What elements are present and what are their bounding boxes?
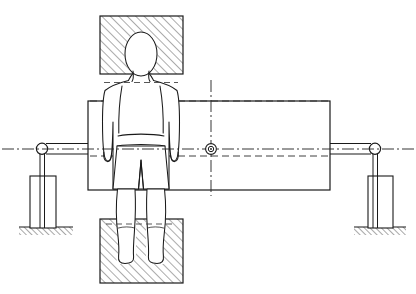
center-mark-dot xyxy=(210,148,212,150)
center-pivot-mark xyxy=(206,144,217,155)
diagram-svg xyxy=(0,0,416,294)
lower-fixture-block xyxy=(100,219,183,283)
figure-torso-and-arms xyxy=(103,71,180,189)
figure-left-leg xyxy=(116,189,135,264)
right-pedestal xyxy=(368,176,393,228)
figure-head xyxy=(125,32,157,76)
left-pedestal xyxy=(30,176,56,228)
lower-block-hatch-fill xyxy=(100,219,183,283)
figure-right-leg xyxy=(147,189,166,264)
technical-diagram-canvas xyxy=(0,0,416,294)
